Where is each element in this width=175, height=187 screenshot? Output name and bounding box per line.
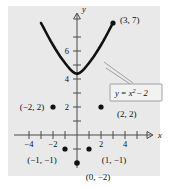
point-3-7 [110, 20, 115, 25]
point-0-neg2 [74, 160, 80, 166]
equation-callout: y=x2−2 [104, 62, 162, 101]
y-axis [74, 13, 81, 168]
equation-equals: = [121, 88, 126, 98]
graph-figure: −4 −2 2 4 2 4 6 x y (−2, 2) (−1, −1) (0,… [0, 0, 175, 187]
point-label-2-2: (2, 2) [117, 109, 137, 119]
y-tick-label-6: 6 [65, 46, 69, 56]
plot-canvas: −4 −2 2 4 2 4 6 x y (−2, 2) (−1, −1) (0,… [0, 0, 175, 187]
y-axis-name: y [81, 4, 86, 14]
equation-exponent: 2 [133, 87, 136, 94]
callout-leader-upper [104, 62, 133, 83]
marked-points [50, 20, 115, 165]
y-tick-label-2: 2 [65, 102, 69, 112]
x-tick-label-neg4: −4 [24, 139, 34, 149]
x-tick-label-neg2: −2 [48, 139, 57, 149]
point-label-neg1-neg1: (−1, −1) [27, 155, 57, 165]
point-label-1-neg1: (1, −1) [102, 155, 127, 165]
equation-operator: − [137, 88, 142, 98]
equation-lhs: y [114, 88, 119, 98]
x-tick-label-4: 4 [123, 139, 128, 149]
point-label-neg2-2: (−2, 2) [20, 102, 45, 112]
point-label-0-neg2: (0, −2) [86, 172, 111, 182]
callout-leader-lower [106, 68, 133, 86]
y-tick-label-4: 4 [65, 74, 70, 84]
point-neg1-neg1 [62, 146, 67, 151]
point-neg2-2 [50, 104, 55, 109]
point-label-3-7: (3, 7) [120, 15, 140, 25]
equation-constant: 2 [143, 88, 148, 98]
x-tick-label-2: 2 [99, 139, 103, 149]
x-axis [14, 132, 153, 139]
point-1-neg1 [86, 146, 91, 151]
x-axis-name: x [157, 130, 162, 140]
point-2-2 [98, 104, 103, 109]
